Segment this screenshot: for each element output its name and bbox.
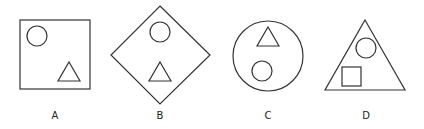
figure-label-c: C — [265, 110, 272, 121]
figure-label-a: A — [52, 110, 59, 121]
diamond-outline-icon — [111, 6, 210, 104]
circle-icon — [27, 26, 47, 46]
figure-a: A — [20, 20, 90, 121]
triangle-outline-icon — [325, 20, 405, 90]
figure-c: C — [233, 21, 303, 121]
figure-b: B — [111, 6, 210, 121]
triangle-icon — [149, 62, 171, 81]
figure-label-b: B — [157, 110, 164, 121]
figure-label-d: D — [362, 110, 370, 121]
figure-d: D — [325, 20, 405, 121]
triangle-icon — [257, 27, 279, 46]
square-icon — [342, 67, 361, 86]
square-outline-icon — [20, 20, 90, 89]
circle-icon — [356, 38, 376, 58]
circle-icon — [150, 22, 170, 42]
figure-diagram: A B C D — [0, 0, 424, 129]
triangle-icon — [58, 62, 80, 81]
circle-outline-icon — [233, 21, 303, 91]
circle-icon — [252, 61, 272, 81]
